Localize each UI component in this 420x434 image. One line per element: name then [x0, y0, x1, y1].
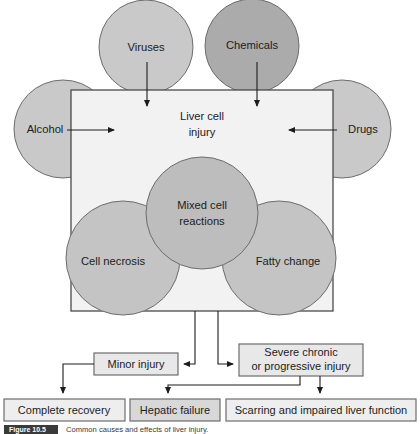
label-mixed-cell-reactions-line2: reactions	[179, 215, 225, 227]
connector-to-severe-chronic	[218, 311, 233, 364]
label-mixed-cell-reactions-line1: Mixed cell	[177, 199, 227, 211]
label-viruses: Viruses	[127, 41, 165, 53]
box-scarring-label: Scarring and impaired liver function	[235, 404, 407, 416]
figure-container: Viruses Chemicals Alcohol Drugs Liver ce…	[0, 0, 420, 434]
connector-to-minor-injury	[184, 311, 195, 364]
center-box-label-line1: Liver cell	[180, 110, 224, 122]
connector-severe-to-hepatic-failure	[168, 376, 300, 393]
caption-text: Common causes and effects of liver injur…	[66, 425, 208, 434]
label-chemicals: Chemicals	[226, 39, 279, 51]
box-severe-chronic-label-line2: or progressive injury	[251, 360, 351, 372]
box-hepatic-failure-label: Hepatic failure	[140, 404, 210, 416]
label-fatty-change: Fatty change	[256, 255, 321, 267]
box-complete-recovery-label: Complete recovery	[18, 404, 111, 416]
box-minor-injury-label: Minor injury	[108, 358, 165, 370]
outcome-connectors-group	[184, 311, 233, 364]
box-severe-chronic-label-line1: Severe chronic	[264, 346, 338, 358]
center-box-label-line2: injury	[189, 126, 216, 138]
label-cell-necrosis: Cell necrosis	[81, 255, 145, 267]
liver-injury-diagram: Viruses Chemicals Alcohol Drugs Liver ce…	[0, 0, 420, 434]
caption-badge-text: Figure 10.5	[9, 426, 46, 434]
circle-mixed-cell-reactions	[146, 157, 258, 269]
connector-minor-to-complete-recovery	[63, 364, 94, 393]
label-drugs: Drugs	[348, 123, 378, 135]
label-alcohol: Alcohol	[27, 123, 64, 135]
